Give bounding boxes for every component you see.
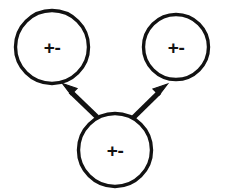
circle-node-top-left[interactable]: +- [16,11,89,84]
circle-node-bottom[interactable]: +- [79,114,152,187]
arrow-bottom-to-top-left [63,84,98,118]
diagram-svg: +- +- +- [0,0,227,189]
node-label-top-right: +- [168,37,185,58]
node-label-top-left: +- [44,37,61,58]
arrow-bottom-to-top-right [133,84,168,118]
node-label-bottom: +- [107,140,124,161]
circle-node-top-right[interactable]: +- [144,15,209,80]
diagram-canvas: +- +- +- [0,0,227,189]
arrow-right-shaft [133,92,160,118]
arrow-left-shaft [71,92,98,118]
